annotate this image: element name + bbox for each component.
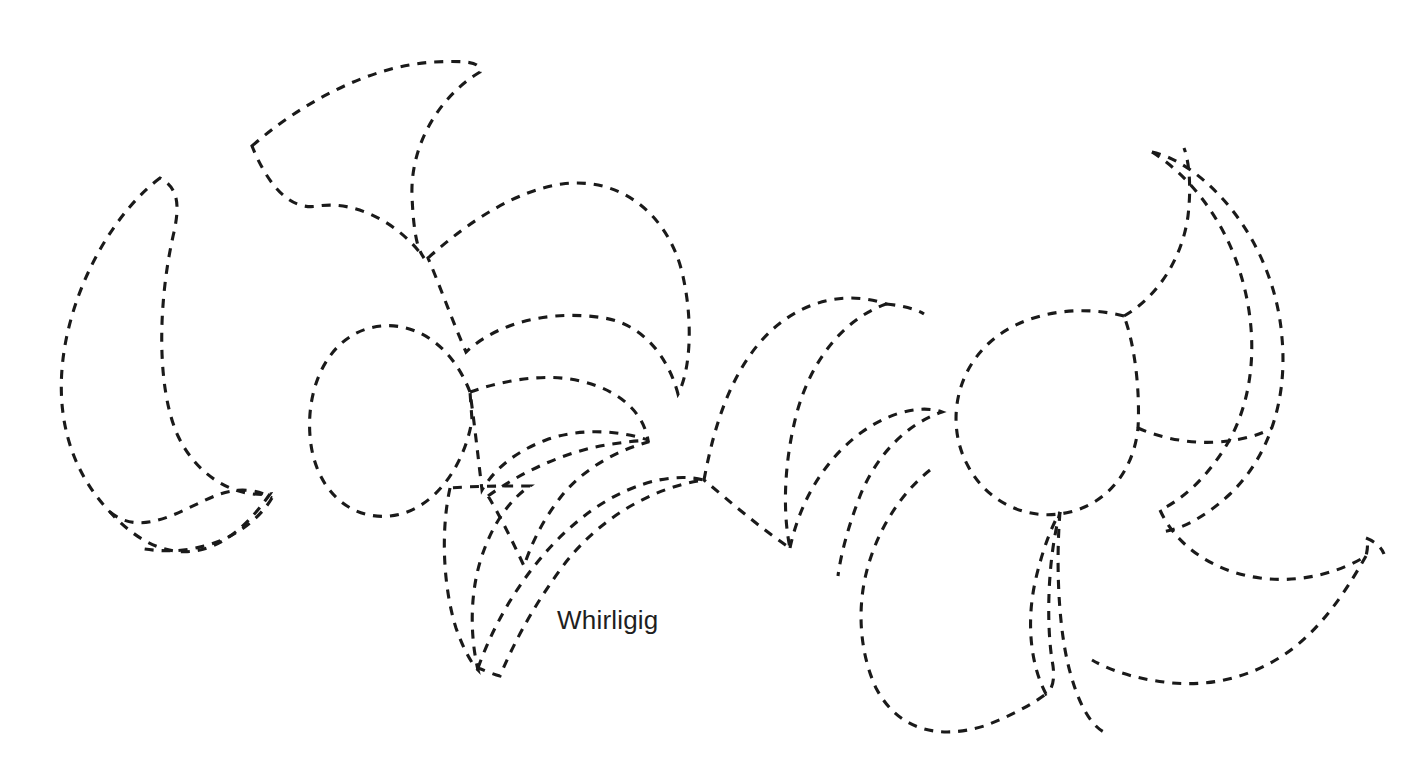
blade-lower-middle-inner [1031, 512, 1060, 694]
drawing-canvas: Whirligig [0, 0, 1416, 779]
blade-upper-left [61, 178, 270, 552]
blade-connector-lower [790, 409, 942, 576]
middle-connector-blade [704, 298, 1060, 732]
blade-right-bottom-left [1058, 512, 1104, 732]
blade-arc-left-lower [110, 490, 272, 523]
page-title: Whirligig [557, 604, 658, 636]
center-hub-left [310, 326, 472, 517]
left-pinwheel [61, 61, 704, 676]
blade-connector [704, 298, 886, 548]
blade-lower-left [444, 486, 530, 670]
blade-right-top [1152, 152, 1252, 510]
blade-connector-arc [886, 304, 924, 314]
blade-right-hub-notch [1138, 428, 1272, 442]
right-pinwheel [956, 148, 1384, 732]
blade-bottom [478, 478, 704, 676]
blade-middle [470, 377, 648, 490]
blade-tip-lower-left [138, 498, 272, 551]
blade-right-mid [1160, 510, 1368, 579]
blade-top [252, 61, 480, 258]
whirligig-illustration [0, 0, 1416, 779]
center-hub-right [956, 311, 1138, 515]
blade-right-top-inner [1152, 152, 1283, 532]
blade-upper-right [428, 183, 689, 394]
